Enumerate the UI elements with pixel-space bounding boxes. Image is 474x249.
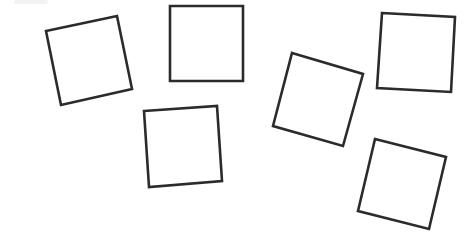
square-2 xyxy=(170,6,243,81)
square-1 xyxy=(46,16,132,105)
diagram-canvas xyxy=(0,0,474,249)
square-3 xyxy=(144,106,222,187)
square-4 xyxy=(273,53,363,146)
square-5 xyxy=(377,13,455,92)
square-6 xyxy=(358,139,446,229)
